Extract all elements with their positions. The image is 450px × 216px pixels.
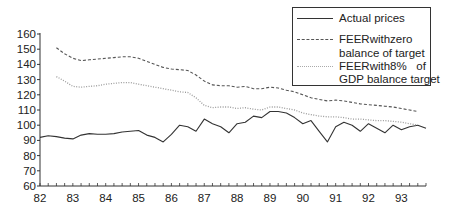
x-tick-label: 91 (329, 192, 342, 204)
legend: Actual prices FEERwithzero balance of ta… (292, 7, 431, 86)
y-tick-label: 160 (17, 28, 36, 40)
y-tick-label: 70 (23, 165, 36, 177)
legend-dashed-line-icon (297, 39, 333, 40)
legend-solid-line-icon (297, 18, 333, 19)
x-tick-label: 93 (395, 192, 408, 204)
x-tick-label: 83 (66, 192, 79, 204)
x-tick-label: 86 (165, 192, 178, 204)
x-tick-label: 84 (99, 192, 112, 204)
y-tick-label: 90 (23, 134, 36, 146)
y-tick-label: 60 (23, 180, 36, 192)
y-tick-label: 120 (17, 89, 36, 101)
series-line-solid (40, 112, 426, 142)
legend-label-zero-2: balance of target (339, 47, 425, 60)
x-tick-label: 89 (264, 192, 277, 204)
y-tick-label: 110 (18, 104, 36, 116)
y-tick-label: 130 (17, 74, 36, 86)
y-tick-label: 100 (17, 119, 36, 131)
x-tick-label: 92 (362, 192, 375, 204)
x-tick-label: 88 (231, 192, 244, 204)
y-tick-label: 80 (23, 150, 36, 162)
x-tick-label: 85 (132, 192, 145, 204)
x-tick-label: 82 (34, 192, 47, 204)
legend-label-8pct-1: FEERwith8% of (339, 60, 426, 73)
legend-label-8pct-2: GDP balance target (339, 73, 440, 86)
legend-label-zero-1: FEERwithzero (339, 33, 413, 46)
x-tick-label: 87 (198, 192, 211, 204)
legend-label-actual: Actual prices (339, 12, 405, 25)
y-tick-label: 150 (17, 43, 36, 55)
x-tick-label: 90 (296, 192, 309, 204)
legend-dotted-line-icon (297, 66, 333, 67)
y-tick-label: 140 (17, 58, 36, 70)
